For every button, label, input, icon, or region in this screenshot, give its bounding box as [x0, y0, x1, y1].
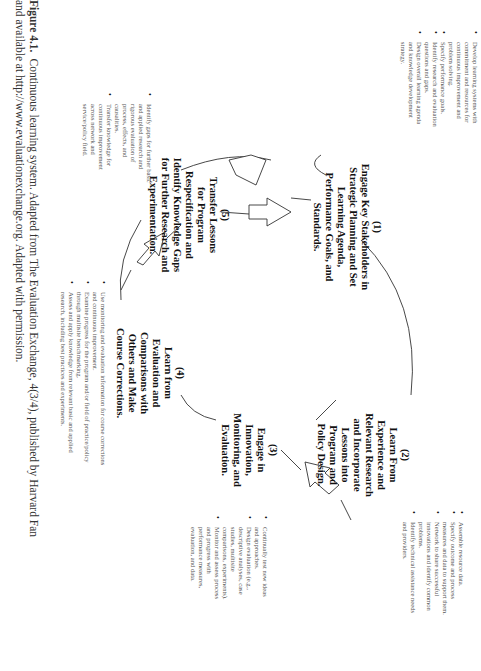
cycle-node-2: (2) Learn From Experience and Relevant R…	[315, 400, 411, 510]
bullet-item: Monitor and assess process and progress …	[189, 527, 221, 607]
bullet-list-3: Continually test new ideas and approache…	[189, 515, 269, 607]
bullet-list-4: Use monitoring and evaluation informatio…	[59, 280, 107, 467]
bullet-item: Specify performance goals.	[439, 42, 447, 130]
figure-label: Figure 4.1.	[28, 0, 40, 53]
cycle-node-3: (3) Engage in Innovation, Monitoring, an…	[219, 400, 279, 500]
bullet-item: Design evaluation (e.g., descriptive ana…	[221, 527, 253, 607]
cycle-node-5: (5) Transfer Lessons for Program Respeci…	[147, 145, 231, 285]
bullet-item: Assemble resource data.	[457, 522, 465, 622]
bullet-item: Identify technical assistance needs and …	[401, 522, 417, 622]
cycle-node-4: (4) Learn from Evaluation and Comparison…	[114, 318, 186, 428]
figure-caption: Figure 4.1.Continuous learning system. A…	[13, 0, 41, 671]
rotated-page: (1) Engage Key Stakeholders in Strategic…	[0, 0, 481, 671]
bullet-item: Design overall learning agenda and knowl…	[399, 42, 423, 130]
bullet-list-1: Develop learning systems with commitment…	[399, 30, 479, 130]
caption-line-1: Figure 4.1.Continuous learning system. A…	[27, 0, 41, 671]
cycle-node-1: (1) Engage Key Stakeholders in Strategic…	[311, 162, 383, 292]
bullet-item: Specify outcome and process measures and…	[441, 522, 457, 622]
bullet-item: Continually test new ideas and approache…	[253, 527, 269, 607]
bullet-item: Assess and apply knowledge from relevant…	[59, 292, 75, 467]
bullet-item: Examine progress for the program and/or …	[75, 292, 91, 467]
arrow-5-to-1-icon	[249, 198, 291, 226]
caption-line-2: and available at http://www.evaluationex…	[13, 0, 27, 671]
bullet-item: Identify research and evaluation questio…	[423, 42, 439, 130]
bullet-item: Develop learning systems with commitment…	[447, 42, 479, 130]
bullet-list-5: Identify gaps for further basic and appl…	[81, 92, 153, 184]
bullet-item: Transfer knowledge for continuous improv…	[81, 104, 113, 184]
bullet-item: Network to share successful innovations …	[417, 522, 441, 622]
bullet-item: Identify gaps for further basic and appl…	[113, 104, 153, 184]
bullet-item: Use monitoring and evaluation informatio…	[91, 292, 107, 467]
bullet-list-2: Assemble resource data. Specify outcome …	[401, 510, 465, 622]
